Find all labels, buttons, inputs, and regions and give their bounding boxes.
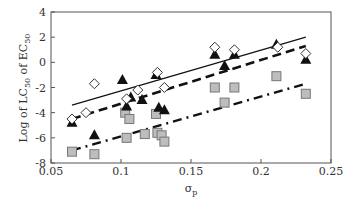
scatter-chart: 0.050.10.150.20.25 420-2-4-6-8 σp Log of… bbox=[0, 0, 357, 201]
fit-lines bbox=[72, 37, 306, 150]
square-marker bbox=[68, 147, 77, 156]
square-marker bbox=[122, 133, 131, 142]
y-tick-label: 0 bbox=[39, 56, 46, 69]
y-axis-ticks: 420-2-4-6-8 bbox=[35, 6, 55, 170]
triangle-marker bbox=[117, 74, 128, 84]
square-marker bbox=[230, 83, 239, 92]
diamond-marker bbox=[67, 114, 77, 124]
triangle-marker bbox=[89, 129, 100, 139]
square-marker bbox=[125, 114, 134, 123]
y-tick-label: -8 bbox=[35, 157, 46, 170]
x-tick-label: 0.15 bbox=[179, 165, 204, 178]
y-tick-label: -2 bbox=[35, 82, 46, 95]
fit-line-solid bbox=[72, 37, 306, 105]
x-tick-label: 0.2 bbox=[252, 165, 270, 178]
fit-line-dashed bbox=[72, 46, 306, 119]
x-tick-label: 0.1 bbox=[112, 165, 130, 178]
diamond-marker bbox=[210, 42, 220, 52]
square-marker bbox=[272, 72, 281, 81]
square-marker bbox=[220, 98, 229, 107]
diamond-marker bbox=[89, 79, 99, 89]
diamond-marker bbox=[229, 45, 239, 55]
square-marker bbox=[210, 83, 219, 92]
x-axis-ticks: 0.050.10.150.20.25 bbox=[39, 159, 344, 178]
square-marker bbox=[160, 137, 169, 146]
diamond-marker bbox=[81, 108, 91, 118]
fit-line-dash-dot bbox=[72, 84, 306, 151]
square-marker bbox=[140, 130, 149, 139]
y-tick-label: 2 bbox=[39, 31, 46, 44]
y-tick-label: -4 bbox=[35, 107, 46, 120]
square-marker bbox=[301, 89, 310, 98]
x-axis-label: σp bbox=[185, 182, 198, 197]
y-tick-label: -6 bbox=[35, 132, 46, 145]
square-marker bbox=[90, 150, 99, 159]
y-tick-label: 4 bbox=[39, 6, 46, 19]
y-axis-label: Log of LC50 of EC50 bbox=[17, 34, 32, 143]
x-tick-label: 0.25 bbox=[319, 165, 344, 178]
diamond-marker bbox=[159, 83, 169, 93]
diamond-marker bbox=[301, 49, 311, 59]
